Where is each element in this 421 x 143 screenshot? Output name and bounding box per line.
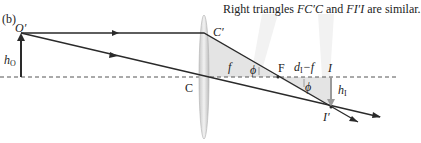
caption-prefix: Right triangles xyxy=(223,2,297,16)
panel-label: (b) xyxy=(2,13,16,25)
label-image-distance: dI−f xyxy=(294,61,314,75)
ray-center-arrow-2 xyxy=(372,112,381,118)
caption-triangle-1: FC′C xyxy=(297,2,323,16)
caption-mid: and xyxy=(323,2,346,16)
highlight-beam xyxy=(252,14,278,70)
label-image-top: I′ xyxy=(323,111,330,123)
label-focal-point: F xyxy=(278,62,285,74)
focal-point-dot xyxy=(277,76,280,79)
label-object-top: O′ xyxy=(15,22,26,34)
ray-parallel-arrow-1 xyxy=(112,30,119,36)
caption-suffix: are similar. xyxy=(364,2,420,16)
figure-caption: Right triangles FC′C and FI′I are simila… xyxy=(223,3,421,15)
label-lens-center: C xyxy=(185,82,193,94)
label-focal-length: f xyxy=(228,61,231,73)
label-image-height: hI xyxy=(338,84,347,98)
label-object-height: hO xyxy=(4,54,16,68)
label-lens-top: C′ xyxy=(213,26,224,38)
label-angle-left: ϕ xyxy=(250,64,256,76)
caption-triangle-2: FI′I xyxy=(346,2,364,16)
label-angle-right: ϕ xyxy=(305,81,311,93)
label-image-point: I xyxy=(328,62,332,74)
image-point-dot xyxy=(330,106,333,109)
